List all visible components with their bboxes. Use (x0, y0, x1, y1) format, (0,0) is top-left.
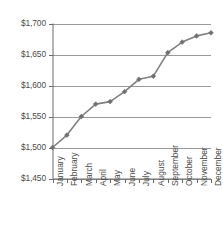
x-tick-label: September (171, 145, 179, 186)
plot-area (0, 0, 223, 247)
series-line (53, 33, 212, 148)
data-point-marker (209, 30, 214, 35)
x-tick-label: April (99, 169, 107, 186)
x-tick-label: March (85, 162, 93, 185)
x-tick-label: January (56, 156, 64, 186)
data-markers (50, 30, 213, 149)
data-point-marker (194, 34, 199, 39)
y-axis-ticks (49, 25, 53, 180)
x-tick-label: May (113, 170, 121, 186)
data-line (53, 33, 212, 148)
x-tick-label: February (70, 152, 78, 186)
x-tick-label: June (128, 167, 136, 185)
x-tick-label: December (214, 147, 222, 186)
x-tick-label: October (185, 156, 193, 186)
x-tick-label: November (200, 147, 208, 186)
line-chart: $1,450$1,500$1,550$1,600$1,650$1,700 Jan… (0, 0, 223, 247)
x-tick-label: August (157, 159, 165, 185)
x-tick-label: July (142, 171, 150, 186)
